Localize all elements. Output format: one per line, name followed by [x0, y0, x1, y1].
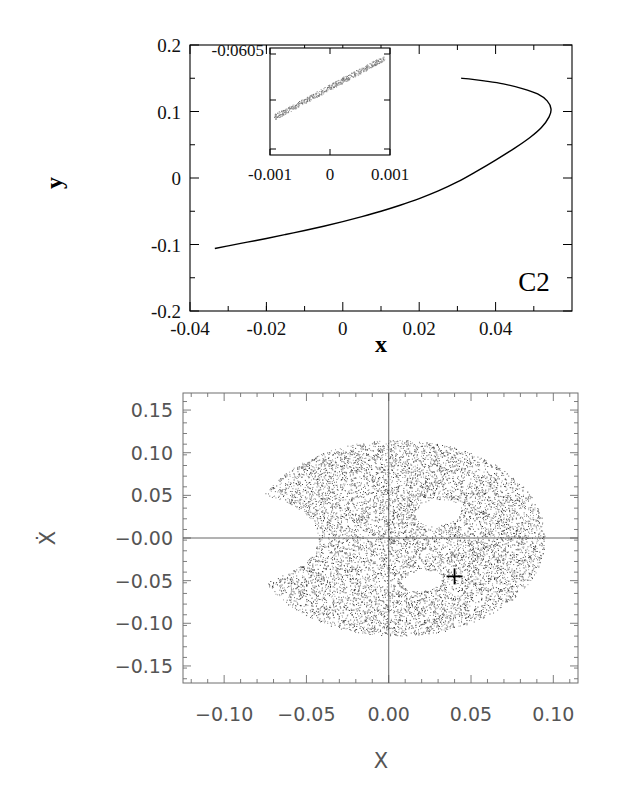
scatter-dot [508, 476, 509, 477]
scatter-dot [375, 590, 376, 591]
scatter-dot [390, 606, 391, 607]
scatter-dot [328, 538, 329, 539]
scatter-dot [382, 566, 383, 567]
scatter-dot [396, 460, 397, 461]
scatter-dot [358, 546, 359, 547]
scatter-dot [450, 620, 451, 621]
scatter-dot [510, 532, 511, 533]
scatter-dot [392, 598, 393, 599]
scatter-dot [330, 606, 331, 607]
scatter-dot [412, 605, 413, 606]
scatter-dot [394, 473, 395, 474]
inset-dot [295, 107, 296, 108]
scatter-dot [303, 475, 304, 476]
scatter-dot [321, 621, 322, 622]
scatter-dot [322, 455, 323, 456]
scatter-dot [382, 477, 383, 478]
inset-dot [281, 114, 282, 115]
scatter-dot [350, 594, 351, 595]
scatter-dot [420, 621, 421, 622]
scatter-dot [382, 508, 383, 509]
scatter-dot [460, 547, 461, 548]
scatter-dot [406, 544, 407, 545]
scatter-dot [456, 614, 457, 615]
scatter-dot [323, 512, 324, 513]
scatter-dot [540, 538, 541, 539]
scatter-dot [444, 447, 445, 448]
scatter-dot [437, 587, 438, 588]
scatter-dot [496, 513, 497, 514]
scatter-dot [363, 547, 364, 548]
scatter-dot [298, 592, 299, 593]
scatter-dot [294, 496, 295, 497]
scatter-dot [454, 555, 455, 556]
scatter-dot [397, 488, 398, 489]
scatter-dot [440, 451, 441, 452]
scatter-dot [319, 581, 320, 582]
scatter-dot [438, 481, 439, 482]
scatter-dot [431, 483, 432, 484]
scatter-dot [345, 513, 346, 514]
scatter-dot [346, 608, 347, 609]
scatter-dot [476, 488, 477, 489]
scatter-dot [333, 538, 334, 539]
scatter-dot [415, 630, 416, 631]
scatter-dot [458, 546, 459, 547]
scatter-dot [475, 540, 476, 541]
scatter-dot [350, 475, 351, 476]
scatter-dot [344, 472, 345, 473]
scatter-dot [508, 536, 509, 537]
scatter-dot [379, 621, 380, 622]
scatter-dot [362, 601, 363, 602]
scatter-dot [455, 599, 456, 600]
scatter-dot [343, 591, 344, 592]
scatter-dot [494, 554, 495, 555]
scatter-dot [374, 498, 375, 499]
scatter-dot [354, 620, 355, 621]
scatter-dot [367, 585, 368, 586]
scatter-dot [383, 486, 384, 487]
scatter-dot [476, 487, 477, 488]
scatter-dot [395, 629, 396, 630]
scatter-dot [466, 624, 467, 625]
scatter-dot [407, 623, 408, 624]
scatter-dot [482, 555, 483, 556]
scatter-dot [436, 587, 437, 588]
scatter-dot [294, 494, 295, 495]
scatter-dot [415, 562, 416, 563]
scatter-dot [289, 582, 290, 583]
scatter-dot [451, 608, 452, 609]
scatter-dot [289, 486, 290, 487]
inset-dot [380, 62, 381, 63]
scatter-dot [335, 449, 336, 450]
scatter-dot [335, 519, 336, 520]
scatter-dot [333, 480, 334, 481]
scatter-dot [417, 591, 418, 592]
scatter-dot [406, 506, 407, 507]
scatter-dot [333, 563, 334, 564]
scatter-dot [533, 515, 534, 516]
scatter-dot [510, 514, 511, 515]
scatter-dot [342, 555, 343, 556]
scatter-dot [477, 555, 478, 556]
scatter-dot [411, 614, 412, 615]
scatter-dot [394, 444, 395, 445]
scatter-dot [502, 508, 503, 509]
scatter-dot [496, 593, 497, 594]
scatter-dot [521, 539, 522, 540]
scatter-dot [417, 526, 418, 527]
scatter-dot [302, 589, 303, 590]
scatter-dot [475, 513, 476, 514]
scatter-dot [467, 486, 468, 487]
scatter-dot [383, 454, 384, 455]
scatter-dot [348, 463, 349, 464]
scatter-dot [467, 593, 468, 594]
scatter-dot [368, 623, 369, 624]
scatter-dot [302, 463, 303, 464]
scatter-dot [403, 510, 404, 511]
scatter-dot [338, 552, 339, 553]
scatter-dot [359, 623, 360, 624]
scatter-dot [507, 565, 508, 566]
scatter-dot [338, 502, 339, 503]
scatter-dot [479, 584, 480, 585]
